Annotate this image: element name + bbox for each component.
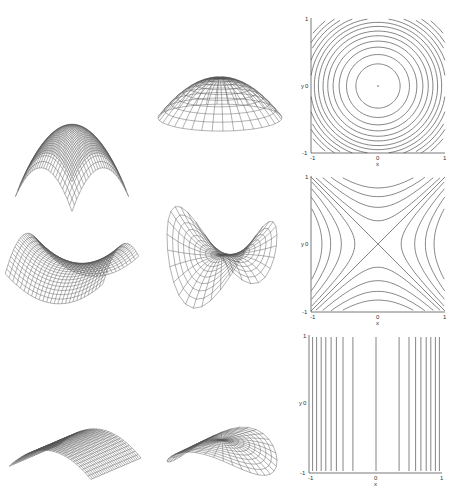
y-tick-min: -1 bbox=[302, 150, 308, 156]
axes-frame bbox=[309, 335, 442, 473]
y-tick-min: -1 bbox=[300, 470, 306, 476]
surface-saddle-cartesian bbox=[5, 233, 138, 303]
contour-plot-hyperbolas: 1 y 0 -1 -1 0 x 1 bbox=[301, 174, 447, 326]
surface-cylinder-polar bbox=[167, 427, 277, 475]
x-axis-label: x bbox=[376, 161, 379, 167]
y-tick-zero: 0 bbox=[305, 241, 309, 247]
y-axis-label: y bbox=[299, 400, 302, 406]
y-tick-zero: 0 bbox=[305, 83, 309, 89]
surface-paraboloid-polar bbox=[158, 77, 282, 131]
contour-lines bbox=[311, 177, 445, 311]
x-tick-min: -1 bbox=[308, 475, 314, 481]
y-tick-max: 1 bbox=[305, 174, 309, 180]
y-axis-label: y bbox=[301, 83, 304, 89]
y-tick-zero: 0 bbox=[303, 400, 307, 406]
figure-canvas: 1 y 0 -1 -1 0 x 1 1 y 0 -1 -1 0 x 1 1 y … bbox=[0, 0, 463, 499]
x-axis-label: x bbox=[376, 320, 379, 326]
x-tick-min: -1 bbox=[310, 314, 316, 320]
y-tick-max: 1 bbox=[305, 16, 309, 22]
y-tick-max: 1 bbox=[303, 333, 307, 339]
y-tick-min: -1 bbox=[302, 309, 308, 315]
x-tick-max: 1 bbox=[443, 155, 447, 161]
x-tick-min: -1 bbox=[310, 155, 316, 161]
x-axis-label: x bbox=[374, 481, 377, 487]
surface-cylinder-cartesian bbox=[9, 429, 141, 480]
x-tick-max: 1 bbox=[443, 314, 447, 320]
contour-lines bbox=[313, 337, 440, 471]
y-axis-label: y bbox=[301, 241, 304, 247]
surface-paraboloid-cartesian bbox=[15, 124, 128, 211]
contour-plot-vertical-lines: 1 y 0 -1 -1 0 x 1 bbox=[299, 333, 444, 487]
contour-lines bbox=[311, 19, 445, 153]
surface-saddle-polar bbox=[167, 207, 277, 309]
x-tick-max: 1 bbox=[440, 475, 444, 481]
contour-plot-circles: 1 y 0 -1 -1 0 x 1 bbox=[301, 16, 447, 167]
